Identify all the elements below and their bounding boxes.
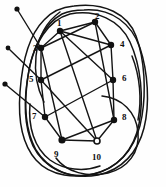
node-label-8: 8 [122, 113, 127, 122]
outer-loop-1 [20, 5, 145, 176]
node-4 [108, 42, 114, 48]
outer-loop-4 [56, 96, 138, 175]
node-label-10: 10 [92, 153, 101, 162]
edge-n9-n10 [62, 140, 97, 141]
edge-weave-a [41, 22, 95, 48]
node-label-4: 4 [120, 40, 125, 49]
node-6 [110, 77, 116, 83]
diagram-canvas [0, 0, 166, 187]
knot-lattice-diagram: 1 2 3 4 5 6 7 8 9 10 [0, 0, 166, 187]
node-label-3: 3 [33, 44, 38, 53]
node-label-6: 6 [122, 74, 127, 83]
node-label-9: 9 [54, 150, 59, 159]
node-label-2: 2 [95, 12, 100, 21]
braid-arc-right [132, 56, 140, 120]
node-8 [111, 117, 117, 123]
edge-weave-b [41, 45, 111, 80]
node-label-1: 1 [57, 19, 62, 28]
node-1 [57, 28, 63, 34]
node-7 [42, 114, 48, 120]
node-5 [38, 77, 44, 83]
node-label-5: 5 [29, 75, 34, 84]
edge-n6-n8 [113, 80, 114, 120]
outer-loop-group [20, 5, 148, 176]
pendant-endpoint-1 [14, 6, 19, 11]
pendant-endpoint-2 [6, 46, 11, 51]
pendant-endpoint-3 [2, 81, 7, 86]
node-9 [58, 136, 65, 143]
edge-n4-n6 [111, 45, 113, 80]
edge-n5-n10 [41, 80, 97, 141]
node-3 [38, 45, 44, 51]
node-10 [94, 138, 100, 144]
node-label-7: 7 [32, 112, 37, 121]
outer-loop-2 [26, 10, 148, 176]
pendant-endpoint-group [2, 6, 19, 86]
